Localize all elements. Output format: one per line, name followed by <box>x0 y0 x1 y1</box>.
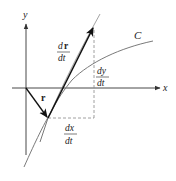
derivative-vector-arrow <box>48 28 93 118</box>
derivative-vector: d r dt <box>48 28 93 118</box>
curve-c-label: C <box>134 29 142 41</box>
position-vector-label: r <box>41 92 46 103</box>
curve-c-path <box>24 41 153 167</box>
tangent-vector-diagram: x y C r d r dt dy dt dx d <box>0 0 176 181</box>
dy-dt-numerator: dy <box>97 66 107 76</box>
dx-dt-numerator: dx <box>65 123 75 133</box>
dr-dt-label: d r dt <box>57 41 70 63</box>
dr-dt-denominator: dt <box>58 53 66 63</box>
dy-dt-label: dy dt <box>96 66 109 88</box>
y-axis-label: y <box>22 9 28 20</box>
axes: x y <box>12 9 168 155</box>
position-vector: r <box>26 88 47 117</box>
dx-dt-denominator: dt <box>65 136 73 146</box>
dy-dt-denominator: dt <box>97 78 105 88</box>
x-axis-label: x <box>162 82 168 93</box>
dr-dt-numerator-r: r <box>64 41 69 51</box>
dr-dt-numerator-d: d <box>58 41 63 51</box>
dx-dt-label: dx dt <box>64 123 77 146</box>
